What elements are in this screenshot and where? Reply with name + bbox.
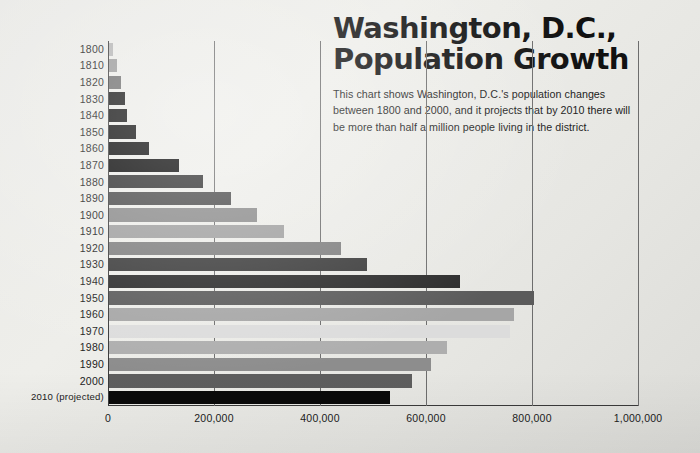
bar-row <box>109 323 639 340</box>
y-tick-label: 1820 <box>0 76 104 88</box>
y-tick-label: 1950 <box>0 292 104 304</box>
bar-row <box>109 91 639 108</box>
page-title-line1: Washington, D.C., <box>333 14 683 44</box>
bar-series <box>109 41 638 405</box>
bar-row <box>109 190 639 207</box>
x-tick-label: 800,000 <box>512 412 551 424</box>
bar-row <box>109 107 639 124</box>
bar-1830 <box>109 92 125 105</box>
y-tick-label: 1920 <box>0 242 104 254</box>
y-tick-label: 1800 <box>0 43 104 55</box>
bar-row <box>109 373 639 390</box>
y-tick-label: 1810 <box>0 59 104 71</box>
bar-1860 <box>109 142 149 155</box>
bar-1900 <box>109 208 257 221</box>
y-tick-label: 1880 <box>0 176 104 188</box>
bar-1850 <box>109 125 136 138</box>
x-tick-label: 200,000 <box>194 412 233 424</box>
bar-row <box>109 389 639 406</box>
bar-1810 <box>109 59 117 72</box>
x-axis-labels: 0200,000400,000600,000800,0001,000,000 <box>0 412 700 432</box>
y-tick-label: 1940 <box>0 275 104 287</box>
y-tick-label: 1970 <box>0 325 104 337</box>
y-axis-labels: 1800181018201830184018501860187018801890… <box>0 41 104 406</box>
bar-1990 <box>109 358 431 371</box>
y-tick-label: 1860 <box>0 142 104 154</box>
y-tick-label: 1870 <box>0 159 104 171</box>
x-tick-label: 1,000,000 <box>614 412 663 424</box>
plot-area <box>108 41 638 406</box>
bar-1820 <box>109 76 121 89</box>
bar-2000 <box>109 374 412 387</box>
y-tick-label: 1990 <box>0 358 104 370</box>
y-tick-label: 1840 <box>0 109 104 121</box>
y-tick-label: 2000 <box>0 375 104 387</box>
bar-row <box>109 157 639 174</box>
y-tick-label: 1850 <box>0 126 104 138</box>
bar-1870 <box>109 159 179 172</box>
bar-1960 <box>109 308 514 321</box>
bar-row <box>109 257 639 274</box>
bar-row <box>109 340 639 357</box>
y-tick-label: 1830 <box>0 93 104 105</box>
bar-row <box>109 174 639 191</box>
y-tick-label: 1980 <box>0 341 104 353</box>
y-tick-label: 1890 <box>0 192 104 204</box>
y-tick-label: 2010 (projected) <box>0 391 104 402</box>
bar-1880 <box>109 175 203 188</box>
bar-row <box>109 124 639 141</box>
bar-row <box>109 273 639 290</box>
bar-1920 <box>109 242 341 255</box>
bar-1950 <box>109 291 534 304</box>
bar-1840 <box>109 109 127 122</box>
bar-row <box>109 141 639 158</box>
bar-1910 <box>109 225 284 238</box>
y-tick-label: 1900 <box>0 209 104 221</box>
x-tick-label: 0 <box>105 412 111 424</box>
x-tick-label: 600,000 <box>406 412 445 424</box>
bar-1970 <box>109 325 510 338</box>
x-tick-label: 400,000 <box>300 412 339 424</box>
bar-row <box>109 207 639 224</box>
y-tick-label: 1910 <box>0 225 104 237</box>
bar-row <box>109 41 639 58</box>
bar-1800 <box>109 43 113 56</box>
bar-1930 <box>109 258 367 271</box>
bar-row <box>109 290 639 307</box>
bar-1890 <box>109 192 231 205</box>
y-tick-label: 1960 <box>0 308 104 320</box>
bar-row <box>109 74 639 91</box>
y-tick-label: 1930 <box>0 258 104 270</box>
bar-1980 <box>109 341 447 354</box>
bar-row <box>109 306 639 323</box>
bar-2010 <box>109 391 390 404</box>
chart-page: Washington, D.C., Population Growth This… <box>0 0 700 453</box>
bar-row <box>109 240 639 257</box>
bar-row <box>109 224 639 241</box>
bar-row <box>109 356 639 373</box>
bar-row <box>109 58 639 75</box>
bar-1940 <box>109 275 460 288</box>
